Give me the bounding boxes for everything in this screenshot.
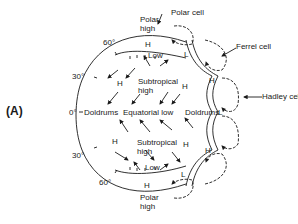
latitude-60s: 60° <box>99 178 111 187</box>
label-h-polar-s: H <box>144 181 150 190</box>
latitude-0: 0° <box>69 108 77 117</box>
label-low-s: Low <box>145 163 160 172</box>
label-h-s-inner: H <box>183 140 189 149</box>
label-doldrums-left: Doldrums <box>84 108 118 117</box>
latitude-30s: 30° <box>72 151 84 160</box>
label-l-eq: L <box>218 108 222 117</box>
panel-label: (A) <box>6 104 23 118</box>
label-polar-cell: Polar cell <box>171 8 204 17</box>
label-polar-high-n-2: high <box>140 24 155 33</box>
label-h-hadley-s: H <box>205 146 211 155</box>
label-hadley-cell: Hadley cell <box>262 92 298 101</box>
label-h-n-inner: H <box>182 82 188 91</box>
label-h-subtropical-s: H <box>112 137 118 146</box>
latitude-30n: 30° <box>72 72 84 81</box>
label-subtropical-n-1: Subtropical <box>138 77 178 86</box>
label-h-polar-n: H <box>145 40 151 49</box>
latitude-60n: 60° <box>103 38 115 47</box>
label-h-hadley-n: H <box>209 76 215 85</box>
label-subtropical-n-2: high <box>138 86 153 95</box>
label-polar-high-n-1: Polar <box>140 15 159 24</box>
label-polar-high-s-1: Polar <box>140 193 159 202</box>
label-low-n: Low <box>148 51 163 60</box>
label-doldrums-right: Doldrums <box>185 108 219 117</box>
label-polar-high-s-2: high <box>140 202 155 211</box>
label-l-n: L <box>184 50 188 59</box>
label-l-s: L <box>181 170 185 179</box>
label-subtropical-s-2: high <box>137 147 152 156</box>
label-equatorial-low: Equatorial low <box>123 108 173 117</box>
label-h-subtropical-n: H <box>117 79 123 88</box>
label-subtropical-s-1: Subtropical <box>137 138 177 147</box>
label-ferrel-cell: Ferrel cell <box>236 42 271 51</box>
